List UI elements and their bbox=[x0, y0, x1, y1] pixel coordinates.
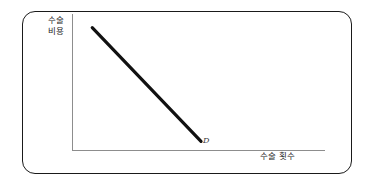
y-axis-line bbox=[72, 14, 73, 151]
plot-area bbox=[72, 14, 325, 151]
demand-curve-label: D bbox=[203, 136, 209, 145]
y-axis-label-line2: 비용 bbox=[42, 26, 70, 37]
y-axis-label: 수술 비용 bbox=[42, 15, 70, 37]
demand-curve-figure: 수술 비용 수술 횟수 D bbox=[0, 0, 367, 186]
x-axis-label: 수술 횟수 bbox=[260, 151, 295, 162]
y-axis-label-line1: 수술 bbox=[42, 15, 70, 26]
